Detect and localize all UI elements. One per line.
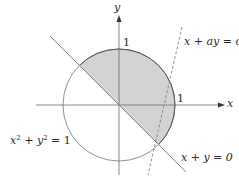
circle-eq-rhs: = 1: [48, 134, 71, 147]
x-tick-1: 1: [177, 93, 184, 104]
y-tick-1: 1: [123, 37, 130, 48]
y-axis-label: y: [114, 2, 120, 13]
label-circle-equation: x2 + y2 = 1: [10, 135, 71, 146]
y-axis-arrow-icon: [117, 15, 122, 22]
shaded-region: [79, 49, 175, 145]
x-axis-label: x: [227, 98, 233, 109]
label-line-x-plus-y: x + y = 0: [181, 152, 233, 163]
x-axis-arrow-icon: [218, 103, 225, 108]
circle-eq-plus: +: [21, 134, 37, 147]
label-line-x-plus-ay: x + ay = c: [184, 36, 239, 47]
